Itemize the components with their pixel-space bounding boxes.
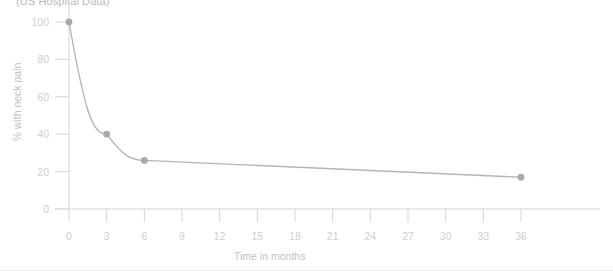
y-axis-title: % with neck pain — [11, 52, 23, 152]
x-tick-label: 9 — [179, 230, 185, 242]
data-point — [103, 131, 110, 138]
x-tick-label: 36 — [515, 230, 527, 242]
y-tick-label: 60 — [37, 91, 49, 103]
y-tick-label: 0 — [43, 203, 49, 215]
x-axis-title: Time in months — [234, 250, 305, 262]
y-tick-label: 80 — [37, 53, 49, 65]
x-tick-label: 27 — [402, 230, 414, 242]
x-tick-label: 15 — [251, 230, 263, 242]
chart-figure: (US Hospital Data) % with neck pain Time… — [0, 0, 613, 275]
x-axis-ticks — [69, 209, 521, 222]
data-point — [518, 174, 525, 181]
y-tick-label: 20 — [37, 166, 49, 178]
x-tick-label: 6 — [141, 230, 147, 242]
x-tick-label: 21 — [327, 230, 339, 242]
x-tick-label: 0 — [66, 230, 72, 242]
data-point — [141, 157, 148, 164]
x-tick-label: 12 — [214, 230, 226, 242]
y-tick-label: 100 — [31, 16, 49, 28]
y-tick-label: 40 — [37, 128, 49, 140]
data-point-markers — [66, 19, 525, 181]
data-series-line — [69, 22, 521, 177]
x-tick-label: 18 — [289, 230, 301, 242]
x-tick-label: 30 — [440, 230, 452, 242]
data-point — [66, 19, 73, 26]
footer-divider — [0, 270, 613, 271]
x-tick-label: 24 — [364, 230, 376, 242]
x-tick-label: 33 — [477, 230, 489, 242]
x-tick-label: 3 — [104, 230, 110, 242]
y-axis-ticks — [55, 22, 69, 209]
